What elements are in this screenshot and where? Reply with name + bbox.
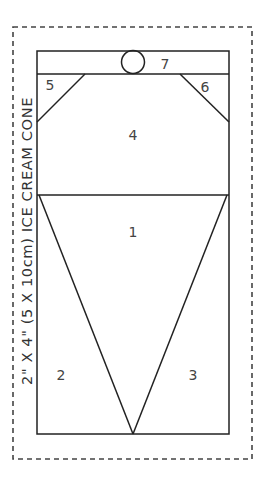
piece-label-2: 2	[57, 367, 66, 383]
piece-label-5: 5	[46, 77, 55, 93]
piece-label-6: 6	[201, 79, 210, 95]
block-title: 2" X 4" (5 X 10cm) ICE CREAM CONE	[19, 97, 35, 385]
cherry-circle	[122, 51, 145, 74]
block-outline	[37, 51, 229, 434]
piece-label-3: 3	[189, 367, 198, 383]
piece-label-1: 1	[129, 224, 138, 240]
cone-right-side	[133, 195, 227, 434]
triangle-5-diagonal	[37, 74, 85, 122]
piece-label-4: 4	[129, 127, 138, 143]
cone-left-side	[39, 195, 133, 434]
ice-cream-cone-pattern: 1 2 3 4 5 6 7 2" X 4" (5 X 10cm) ICE CRE…	[0, 0, 268, 489]
piece-label-7: 7	[161, 56, 170, 72]
